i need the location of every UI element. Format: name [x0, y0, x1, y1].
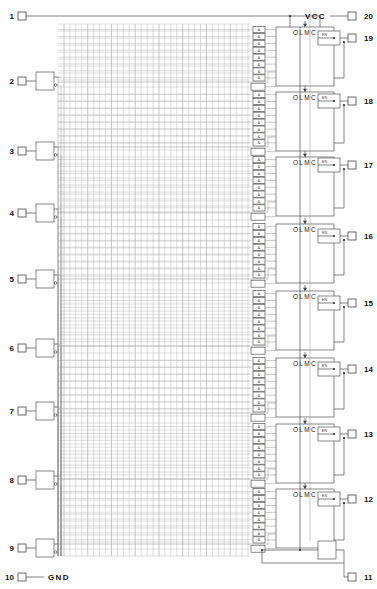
right-pin-pad-12[interactable] [348, 495, 356, 503]
and-gate-symbol: & [258, 503, 261, 508]
right-pin-pad-19[interactable] [348, 34, 356, 42]
input-buffer-5 [36, 270, 54, 288]
feedback-tap [343, 306, 345, 308]
and-gate-symbol: & [258, 517, 261, 522]
and-gate-symbol: & [258, 199, 261, 204]
left-pin-pad-5[interactable] [18, 275, 26, 283]
enable-label: EN [322, 429, 327, 433]
vcc-label: VCC [305, 12, 326, 21]
and-gate-symbol: & [258, 266, 261, 271]
left-pin-pad-8[interactable] [18, 476, 26, 484]
and-gate-symbol: & [258, 445, 261, 450]
and-gate-symbol: & [258, 171, 261, 176]
left-pin-pad-7[interactable] [18, 407, 26, 415]
and-gate-symbol: & [258, 27, 261, 32]
clock-arrow [303, 89, 307, 92]
and-gate-symbol: & [258, 252, 261, 257]
and-gate-symbol: & [258, 365, 261, 370]
and-gate-symbol: & [258, 34, 261, 39]
clock-arrow [303, 486, 307, 489]
right-pin-pad-13[interactable] [348, 430, 356, 438]
olmc-label: OLMC [293, 426, 317, 433]
inverter-bubble [54, 414, 57, 417]
and-gate-symbol: & [258, 326, 261, 331]
inverter-bubble [54, 551, 57, 554]
oe-buffer [318, 541, 336, 559]
right-pin-number-15: 15 [364, 299, 373, 308]
and-gate-symbol: & [258, 245, 261, 250]
or-gate [251, 83, 265, 90]
and-gate-symbol: & [258, 185, 261, 190]
feedback-tap [343, 41, 345, 43]
and-gate-symbol: & [258, 537, 261, 542]
right-pin-pad-20[interactable] [348, 12, 356, 20]
inverter-bubble [54, 351, 57, 354]
and-gate-symbol: & [258, 99, 261, 104]
olmc-label: OLMC [293, 491, 317, 498]
left-pin-number-8: 8 [10, 476, 15, 485]
pld-logic-diagram: 12345678910GND20VCC191817161514131211&&&… [0, 0, 377, 589]
and-gate-symbol: & [258, 524, 261, 529]
left-pin-number-4: 4 [10, 209, 15, 218]
and-gate-symbol: & [258, 55, 261, 60]
and-gate-symbol: & [258, 496, 261, 501]
olmc-label: OLMC [293, 226, 317, 233]
left-pin-pad-10[interactable] [18, 573, 26, 581]
right-pin-pad-14[interactable] [348, 365, 356, 373]
enable-label: EN [322, 298, 327, 302]
inverter-bubble [54, 483, 57, 486]
gnd-label: GND [48, 573, 70, 582]
and-gate-symbol: & [258, 466, 261, 471]
or-gate [251, 280, 265, 287]
right-pin-pad-11[interactable] [348, 573, 356, 581]
input-buffer-2 [36, 72, 54, 90]
out-junction [333, 37, 335, 39]
and-gate-symbol: & [258, 75, 261, 80]
olmc-label: OLMC [293, 29, 317, 36]
and-gate-symbol: & [258, 319, 261, 324]
and-gate-symbol: & [258, 472, 261, 477]
right-pin-number-20: 20 [364, 12, 373, 21]
or-gate [251, 480, 265, 487]
right-pin-pad-16[interactable] [348, 232, 356, 240]
out-junction [333, 235, 335, 237]
out-junction [333, 433, 335, 435]
left-pin-pad-6[interactable] [18, 344, 26, 352]
left-pin-number-7: 7 [10, 407, 15, 416]
and-gate-symbol: & [258, 406, 261, 411]
and-gate-symbol: & [258, 224, 261, 229]
out-junction [333, 164, 335, 166]
right-pin-number-11: 11 [364, 573, 373, 582]
clock-arrow [303, 221, 307, 224]
right-pin-pad-18[interactable] [348, 97, 356, 105]
left-pin-pad-1[interactable] [18, 12, 26, 20]
oe-junction [299, 549, 301, 551]
and-gate-symbol: & [258, 489, 261, 494]
left-pin-pad-9[interactable] [18, 544, 26, 552]
and-gate-symbol: & [258, 379, 261, 384]
left-pin-pad-3[interactable] [18, 147, 26, 155]
olmc-label: OLMC [293, 159, 317, 166]
input-buffer-6 [36, 339, 54, 357]
and-gate-symbol: & [258, 291, 261, 296]
and-gate-symbol: & [258, 205, 261, 210]
left-pin-number-5: 5 [10, 275, 15, 284]
right-pin-pad-15[interactable] [348, 299, 356, 307]
olmc-label: OLMC [293, 360, 317, 367]
left-pin-pad-2[interactable] [18, 77, 26, 85]
clock-junction [289, 15, 291, 17]
and-gate-symbol: & [258, 238, 261, 243]
and-gate-symbol: & [258, 372, 261, 377]
left-pin-number-6: 6 [10, 344, 15, 353]
enable-label: EN [322, 494, 327, 498]
olmc-label: OLMC [293, 94, 317, 101]
left-pin-number-9: 9 [10, 544, 15, 553]
right-pin-pad-17[interactable] [348, 161, 356, 169]
out-junction [333, 368, 335, 370]
left-pin-number-2: 2 [10, 77, 15, 86]
and-gate-symbol: & [258, 339, 261, 344]
or-gate [251, 148, 265, 155]
feedback-tap [343, 372, 345, 374]
and-gate-symbol: & [258, 48, 261, 53]
left-pin-pad-4[interactable] [18, 209, 26, 217]
